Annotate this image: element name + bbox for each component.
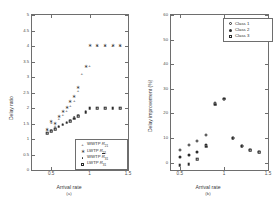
y-tick-label: 40 <box>163 62 168 66</box>
y-tick-label: 2.5 <box>23 90 29 94</box>
y-tick-label: 0.5 <box>23 152 29 156</box>
x-tick <box>51 167 52 170</box>
data-point <box>258 151 261 154</box>
x-tick <box>51 15 52 18</box>
data-point <box>196 158 199 161</box>
data-point <box>69 104 72 107</box>
y-tick-label: 4.5 <box>23 28 29 32</box>
data-point <box>249 149 252 152</box>
y-tick <box>171 138 174 139</box>
data-point <box>205 146 208 149</box>
square-icon <box>226 35 235 38</box>
data-point <box>65 122 68 125</box>
legend-item[interactable]: Class 3 <box>226 33 270 39</box>
data-point <box>84 65 88 69</box>
y-tick <box>32 77 35 78</box>
x-tick-label: 1.5 <box>265 172 271 177</box>
y-tick-label: 3 <box>27 75 29 79</box>
data-point <box>73 117 76 120</box>
y-tick <box>125 93 128 94</box>
x-tick-label: 1.5 <box>125 172 131 177</box>
y-axis-title-b: Delay improvement (%) <box>148 80 153 132</box>
legend-label: LWTP R31 <box>87 161 106 167</box>
x-tick <box>268 167 269 170</box>
panel-caption-b: (b) <box>139 191 277 197</box>
data-point <box>118 44 122 48</box>
data-point <box>54 128 57 131</box>
x-tick <box>90 15 91 18</box>
data-point <box>103 44 107 48</box>
y-tick-label: 1.5 <box>23 121 29 125</box>
y-tick <box>125 31 128 32</box>
y-tick <box>171 40 174 41</box>
data-point <box>61 123 64 126</box>
circle-filled-icon <box>226 29 235 32</box>
legend-a[interactable]: WWTP R21 LWTP R21 WWTP R31 LWTP R31 <box>75 139 128 170</box>
x-tick <box>128 15 129 18</box>
y-tick-label: 60 <box>163 13 168 17</box>
x-tick-label: 1 <box>223 172 226 177</box>
legend-label: Class 2 <box>235 28 249 32</box>
y-tick <box>265 163 268 164</box>
y-tick <box>125 124 128 125</box>
y-tick <box>32 170 35 171</box>
data-point <box>223 97 226 100</box>
data-point <box>214 103 217 106</box>
y-tick-label: 50 <box>163 37 168 41</box>
y-tick <box>125 46 128 47</box>
y-tick-label: 2 <box>27 106 29 110</box>
y-tick <box>32 31 35 32</box>
data-point <box>61 110 65 114</box>
data-point <box>65 106 69 110</box>
x-tick-label: 1 <box>88 172 91 177</box>
y-tick <box>171 15 174 16</box>
y-tick-label: 0 <box>166 161 168 165</box>
x-tick <box>180 15 181 18</box>
data-point <box>178 148 181 151</box>
star-icon <box>78 150 87 154</box>
y-tick-label: 10 <box>163 136 168 140</box>
x-tick-label: 0.5 <box>48 172 54 177</box>
y-tick <box>125 108 128 109</box>
chart-panel-a: Delay ratio 00.511.522.533.544.550.511.5… <box>0 0 138 206</box>
y-tick <box>125 62 128 63</box>
y-tick <box>32 15 35 16</box>
data-point <box>53 122 57 126</box>
y-tick <box>265 89 268 90</box>
data-point <box>72 95 76 99</box>
data-point <box>88 64 91 67</box>
data-point <box>111 107 114 110</box>
data-point <box>58 125 61 128</box>
legend-label: Class 3 <box>235 34 249 38</box>
data-point <box>187 144 190 147</box>
data-point <box>84 111 87 114</box>
y-tick <box>32 155 35 156</box>
y-tick <box>265 113 268 114</box>
y-tick <box>32 62 35 63</box>
y-tick-label: 3.5 <box>23 59 29 63</box>
y-tick-label: 1 <box>27 137 29 141</box>
data-point <box>76 86 80 90</box>
data-point <box>111 44 115 48</box>
data-point <box>77 115 80 118</box>
x-tick <box>128 167 129 170</box>
plus-icon <box>78 143 87 146</box>
figure-container: Delay ratio 00.511.522.533.544.550.511.5… <box>0 0 277 206</box>
y-tick <box>171 163 174 164</box>
legend-item[interactable]: LWTP R31 <box>78 161 125 167</box>
y-tick <box>32 108 35 109</box>
y-tick <box>32 93 35 94</box>
y-tick <box>265 138 268 139</box>
y-tick-label: 0 <box>27 168 29 172</box>
y-tick-label: 4 <box>27 44 29 48</box>
y-tick-label: 5 <box>27 13 29 17</box>
data-point <box>231 137 234 140</box>
data-point <box>68 100 72 104</box>
legend-b[interactable]: Class 1 Class 2 Class 3 <box>223 18 273 42</box>
data-point <box>178 156 181 159</box>
y-tick <box>32 124 35 125</box>
data-point <box>69 120 72 123</box>
data-point <box>187 163 190 166</box>
y-tick <box>171 89 174 90</box>
x-axis-label-b: Arrival rate <box>195 184 220 190</box>
